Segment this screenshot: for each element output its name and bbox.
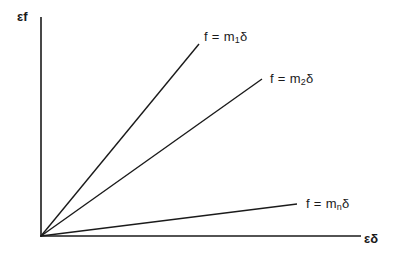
label-mn-rhs: δ (342, 196, 350, 211)
label-mn: f = mnδ (306, 197, 350, 214)
label-m2: f = m2δ (270, 72, 314, 89)
label-mn-lhs: f = m (306, 196, 337, 211)
label-m1-rhs: δ (240, 29, 248, 44)
label-m2-rhs: δ (306, 71, 314, 86)
label-m2-lhs: f = m (270, 71, 301, 86)
label-m1: f = m1δ (204, 30, 248, 47)
x-axis-label: εδ (364, 232, 378, 246)
y-axis-label: εf (17, 10, 28, 24)
label-m1-lhs: f = m (204, 29, 235, 44)
line-diagram (0, 0, 401, 261)
